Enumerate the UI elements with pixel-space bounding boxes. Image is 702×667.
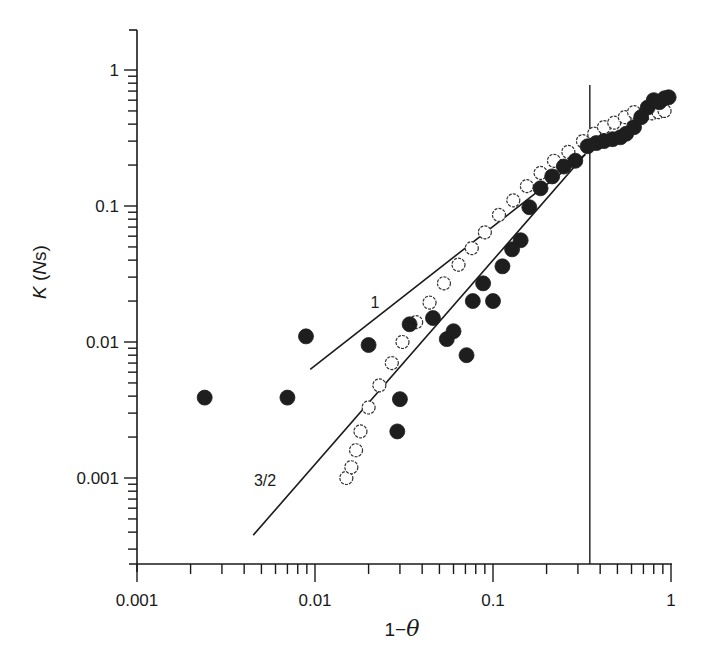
filled-circle-point: [459, 348, 474, 363]
filled-circle-point: [197, 390, 212, 405]
x-axis-title: 1−θ: [385, 616, 420, 641]
filled-circle-point: [495, 259, 510, 274]
open-circle-point: [520, 180, 533, 193]
filled-circle-point: [533, 181, 548, 196]
axis-labels: 0.0010.010.110.0010.010.111−θK (Ns): [29, 61, 676, 641]
open-circle-point: [354, 425, 367, 438]
fit-label-3-2: 3/2: [254, 472, 276, 489]
x-tick-label: 0.001: [116, 591, 159, 610]
filled-circle-point: [476, 276, 491, 291]
filled-circle-point: [390, 424, 405, 439]
filled-circle-point: [465, 294, 480, 309]
filled-circle-point: [522, 200, 537, 215]
open-circle-point: [507, 194, 520, 207]
filled-circle-point: [486, 294, 501, 309]
open-circle-point: [478, 226, 491, 239]
filled-circle-point: [446, 324, 461, 339]
open-circle-point: [423, 296, 436, 309]
filled-circle-series: [197, 90, 676, 439]
open-circle-point: [373, 379, 386, 392]
filled-circle-point: [392, 392, 407, 407]
open-circle-point: [350, 444, 363, 457]
open-circle-point: [345, 461, 358, 474]
filled-circle-point: [568, 153, 583, 168]
open-circle-point: [396, 336, 409, 349]
y-axis-title: K (Ns): [29, 245, 50, 299]
open-circle-point: [492, 208, 505, 221]
open-circle-point: [452, 258, 465, 271]
x-tick-label: 0.01: [298, 591, 331, 610]
chart-canvas: 13/2 0.0010.010.110.0010.010.111−θK (Ns): [0, 0, 702, 667]
filled-circle-point: [425, 311, 440, 326]
y-tick-label: 0.001: [76, 469, 119, 488]
filled-circle-point: [361, 338, 376, 353]
filled-circle-point: [661, 90, 676, 105]
y-tick-label: 1: [110, 61, 119, 80]
filled-circle-point: [513, 233, 528, 248]
open-circle-point: [465, 242, 478, 255]
filled-circle-point: [402, 317, 417, 332]
filled-circle-point: [298, 329, 313, 344]
open-circle-point: [362, 401, 375, 414]
y-tick-label: 0.1: [95, 197, 119, 216]
x-tick-label: 0.1: [481, 591, 505, 610]
x-tick-label: 1: [666, 591, 675, 610]
fit-label-1: 1: [371, 294, 380, 311]
open-circle-series: [340, 104, 671, 484]
open-circle-point: [437, 277, 450, 290]
filled-circle-point: [280, 390, 295, 405]
open-circle-point: [385, 357, 398, 370]
y-tick-label: 0.01: [86, 333, 119, 352]
